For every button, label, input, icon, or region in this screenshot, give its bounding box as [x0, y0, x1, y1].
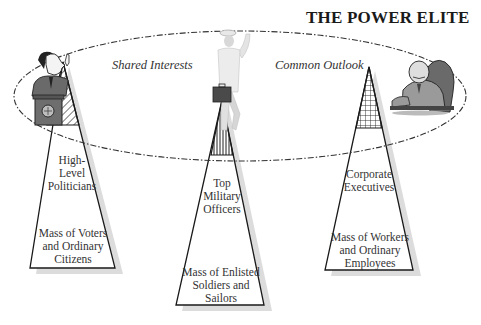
- high-level-politicians-label: High- Level Politicians: [42, 154, 102, 193]
- mass-of-voters-label: Mass of Voters and Ordinary Citizens: [32, 227, 114, 266]
- corporate-executives-label: Corporate Executives: [336, 168, 402, 194]
- mass-of-workers-label: Mass of Workers and Ordinary Employees: [327, 231, 413, 270]
- shared-interests-label: Shared Interests: [112, 58, 193, 73]
- top-military-officers-label: Top Military Officers: [193, 177, 251, 216]
- diagram-title: THE POWER ELITE: [306, 8, 470, 28]
- common-outlook-label: Common Outlook: [275, 58, 364, 73]
- executive-figure-icon: [390, 60, 454, 115]
- mass-of-enlisted-label: Mass of Enlisted Soldiers and Sailors: [176, 266, 266, 305]
